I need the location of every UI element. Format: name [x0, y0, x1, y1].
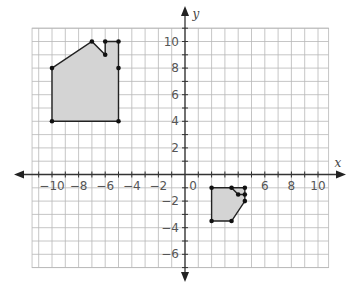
- x-tick-label: −8: [70, 179, 88, 193]
- vertex-point: [209, 186, 214, 191]
- vertex-point: [243, 186, 248, 191]
- x-tick-label: −6: [96, 179, 114, 193]
- y-tick-label: 4: [171, 114, 179, 128]
- y-tick-label: −2: [161, 194, 179, 208]
- x-axis-label: x: [335, 156, 342, 170]
- tick-labels: −10−8−6−4−206810108642−2−4−6xy: [39, 7, 341, 261]
- vertex-point: [116, 119, 121, 124]
- vertex-point: [90, 39, 95, 44]
- vertex-point: [116, 39, 121, 44]
- y-tick-label: −6: [161, 247, 179, 261]
- y-tick-label: 10: [164, 35, 179, 49]
- x-tick-label: −4: [123, 179, 141, 193]
- figure-b-polygon: [212, 188, 245, 221]
- x-tick-label: 8: [288, 179, 296, 193]
- coordinate-plane: −10−8−6−4−206810108642−2−4−6xy: [0, 0, 360, 289]
- y-tick-label: 8: [171, 61, 179, 75]
- vertex-point: [50, 66, 55, 71]
- chart-svg: −10−8−6−4−206810108642−2−4−6xy: [0, 0, 360, 289]
- vertex-point: [50, 119, 55, 124]
- vertex-point: [229, 219, 234, 224]
- x-tick-label: 6: [261, 179, 269, 193]
- y-axis-label: y: [192, 7, 200, 21]
- vertex-point: [243, 192, 248, 197]
- x-axis-left-arrow-icon: [14, 171, 24, 179]
- y-axis-up-arrow-icon: [181, 6, 189, 16]
- vertex-point: [103, 53, 108, 58]
- vertex-point: [243, 199, 248, 204]
- y-tick-label: 6: [171, 88, 179, 102]
- figure-a-polygon: [52, 42, 119, 122]
- x-tick-label: −2: [150, 179, 168, 193]
- vertex-point: [209, 219, 214, 224]
- x-axis-right-arrow-icon: [336, 171, 346, 179]
- x-tick-label: 10: [310, 179, 325, 193]
- vertex-point: [236, 192, 241, 197]
- x-tick-label: 0: [189, 179, 197, 193]
- vertex-point: [116, 66, 121, 71]
- x-tick-label: −10: [39, 179, 64, 193]
- y-tick-label: −4: [161, 221, 179, 235]
- y-tick-label: 2: [171, 141, 179, 155]
- vertex-point: [103, 39, 108, 44]
- figures: [50, 39, 247, 223]
- vertex-point: [229, 186, 234, 191]
- y-axis-down-arrow-icon: [181, 272, 189, 282]
